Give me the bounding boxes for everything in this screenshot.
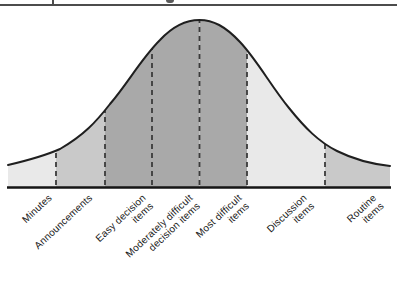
segment-label: Most difficult items [193,192,251,248]
segment-label: Discussion items [264,192,316,242]
page: MinutesAnnouncementsEasy decision itemsM… [0,0,397,285]
segment-label: Routine items [345,192,386,233]
segment-label: Minutes [19,192,53,225]
segment-labels: MinutesAnnouncementsEasy decision itemsM… [0,0,397,285]
